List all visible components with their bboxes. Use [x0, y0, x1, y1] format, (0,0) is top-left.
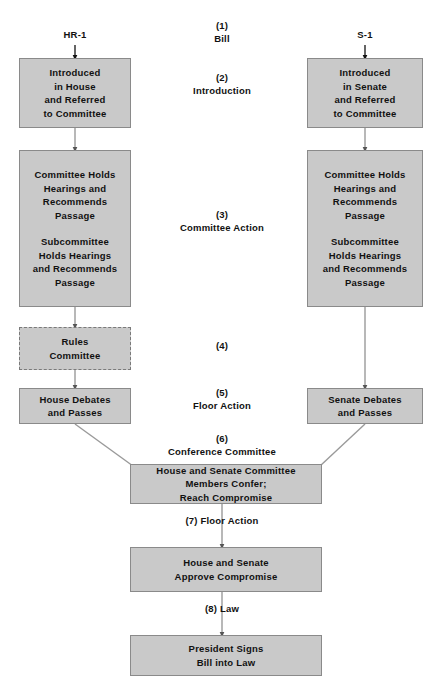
- house-box-introduced-text: Introduced in House and Referred to Comm…: [43, 66, 106, 120]
- stage-label-8: (8) Law: [162, 602, 282, 616]
- senate-box-introduced-text: Introduced in Senate and Referred to Com…: [333, 66, 396, 120]
- stage-label-5-number: (5): [172, 386, 272, 400]
- senate-box-debates-text: Senate Debates and Passes: [328, 393, 402, 420]
- house-box-debates-text: House Debates and Passes: [39, 393, 110, 420]
- senate-box-committee: Committee Holds Hearings and Recommends …: [307, 150, 423, 307]
- stage-label-2-name: Introduction: [172, 84, 272, 98]
- house-box-debates: House Debates and Passes: [19, 388, 131, 424]
- house-box-committee: Committee Holds Hearings and Recommends …: [19, 150, 131, 307]
- center-box-conference-text: House and Senate Committee Members Confe…: [156, 464, 295, 505]
- center-box-approve-compromise-text: House and Senate Approve Compromise: [175, 556, 278, 583]
- house-box-rules-committee: Rules Committee: [19, 327, 131, 370]
- senate-box-committee-text: Committee Holds Hearings and Recommends …: [324, 168, 405, 222]
- house-box-committee-text: Committee Holds Hearings and Recommends …: [34, 168, 115, 222]
- center-box-president-signs: President Signs Bill into Law: [130, 635, 322, 676]
- stage-label-7: (7) Floor Action: [152, 514, 292, 528]
- stage-label-6-name: Conference Committee: [142, 445, 302, 459]
- senate-box-debates: Senate Debates and Passes: [307, 388, 423, 424]
- stage-label-2-number: (2): [172, 71, 272, 85]
- entry-label-s1: S-1: [335, 28, 395, 42]
- stage-label-3-number: (3): [162, 208, 282, 222]
- entry-label-hr1: HR-1: [45, 28, 105, 42]
- stage-label-5-name: Floor Action: [172, 399, 272, 413]
- house-box-introduced: Introduced in House and Referred to Comm…: [19, 58, 131, 128]
- stage-label-3-name: Committee Action: [162, 221, 282, 235]
- house-box-subcommittee-text: Subcommittee Holds Hearings and Recommen…: [33, 235, 118, 289]
- center-box-conference: House and Senate Committee Members Confe…: [130, 464, 322, 504]
- house-box-rules-committee-text: Rules Committee: [50, 335, 101, 362]
- stage-label-6-number: (6): [152, 432, 292, 446]
- senate-box-introduced: Introduced in Senate and Referred to Com…: [307, 58, 423, 128]
- center-box-approve-compromise: House and Senate Approve Compromise: [130, 547, 322, 592]
- center-box-president-signs-text: President Signs Bill into Law: [189, 642, 264, 669]
- stage-label-1-name: Bill: [172, 32, 272, 46]
- stage-label-4-number: (4): [172, 339, 272, 353]
- legislative-process-flowchart: HR-1 S-1 (1) Bill (2) Introduction (3) C…: [0, 0, 444, 680]
- stage-label-1-number: (1): [172, 19, 272, 33]
- senate-box-subcommittee-text: Subcommittee Holds Hearings and Recommen…: [323, 235, 408, 289]
